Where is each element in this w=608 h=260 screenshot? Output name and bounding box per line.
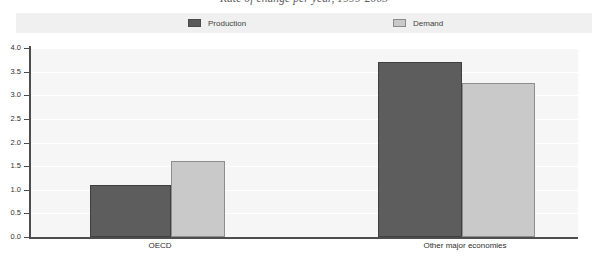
y-axis-tick-label: 4.0 bbox=[0, 44, 21, 52]
demand-swatch-icon bbox=[393, 19, 406, 27]
x-axis-category-label-oecd: OECD bbox=[120, 241, 200, 250]
y-axis-tick-mark bbox=[24, 143, 30, 144]
legend-label-production: Production bbox=[208, 19, 246, 28]
legend-entry-production: Production bbox=[188, 13, 246, 33]
gridline bbox=[30, 72, 578, 73]
y-axis-tick-mark bbox=[24, 190, 30, 191]
x-axis-line bbox=[29, 237, 578, 239]
chart-legend: Production Demand bbox=[16, 13, 592, 33]
y-axis-tick-mark bbox=[24, 119, 30, 120]
y-axis-tick-mark bbox=[24, 237, 30, 238]
x-axis-category-label-other-major-economies: Other major economies bbox=[390, 241, 540, 250]
y-axis-tick-mark bbox=[24, 213, 30, 214]
chart-figure: Rate of change per year, 1999-2005 Produ… bbox=[0, 0, 608, 260]
y-axis-tick-mark bbox=[24, 48, 30, 49]
chart-title: Rate of change per year, 1999-2005 bbox=[0, 0, 608, 4]
y-axis-tick-label: 1.5 bbox=[0, 162, 21, 170]
bar-production-oecd bbox=[90, 185, 171, 237]
bar-demand-other-major-economies bbox=[462, 83, 535, 237]
y-axis-tick-label: 2.5 bbox=[0, 115, 21, 123]
y-axis-tick-label: 3.5 bbox=[0, 68, 21, 76]
legend-label-demand: Demand bbox=[413, 19, 443, 28]
bar-demand-oecd bbox=[171, 161, 225, 237]
production-swatch-icon bbox=[188, 19, 201, 27]
plot-area bbox=[30, 48, 578, 237]
y-axis-tick-label: 2.0 bbox=[0, 139, 21, 147]
y-axis-tick-mark bbox=[24, 95, 30, 96]
y-axis-tick-label: 0.0 bbox=[0, 233, 21, 241]
y-axis-tick-label: 0.5 bbox=[0, 209, 21, 217]
y-axis-tick-mark bbox=[24, 166, 30, 167]
y-axis-tick-label: 1.0 bbox=[0, 186, 21, 194]
gridline bbox=[30, 48, 578, 49]
y-axis-tick-label: 3.0 bbox=[0, 91, 21, 99]
y-axis-tick-mark bbox=[24, 72, 30, 73]
legend-entry-demand: Demand bbox=[393, 13, 443, 33]
bar-production-other-major-economies bbox=[378, 62, 462, 237]
